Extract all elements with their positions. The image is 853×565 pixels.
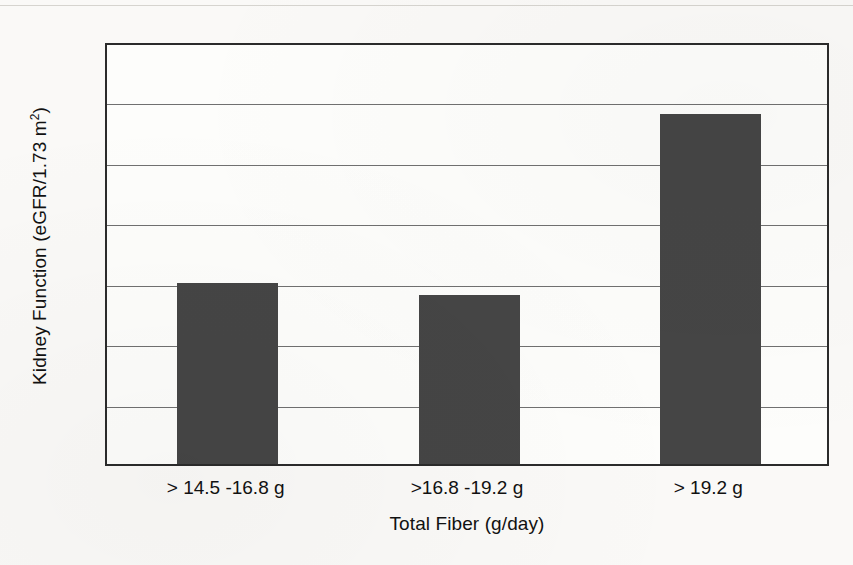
- gridline: [107, 104, 827, 105]
- y-axis-title-superscript: 2: [28, 113, 42, 120]
- y-axis-title-tail: ): [29, 107, 50, 113]
- bar: [177, 283, 278, 464]
- y-axis-title: Kidney Function (eGFR/1.73 m2): [29, 36, 51, 456]
- x-axis-title: Total Fiber (g/day): [105, 513, 829, 535]
- x-axis-tick-label: >16.8 -19.2 g: [411, 477, 524, 499]
- x-axis-tick-label: > 19.2 g: [674, 477, 743, 499]
- x-axis-tick-label: > 14.5 -16.8 g: [167, 477, 285, 499]
- bar: [419, 295, 520, 464]
- bar: [660, 114, 761, 464]
- plot-area: [105, 43, 829, 466]
- bar-chart-figure: Kidney Function (eGFR/1.73 m2) 00.511.52…: [0, 0, 853, 565]
- y-axis-title-text: Kidney Function (eGFR/1.73 m: [29, 120, 50, 385]
